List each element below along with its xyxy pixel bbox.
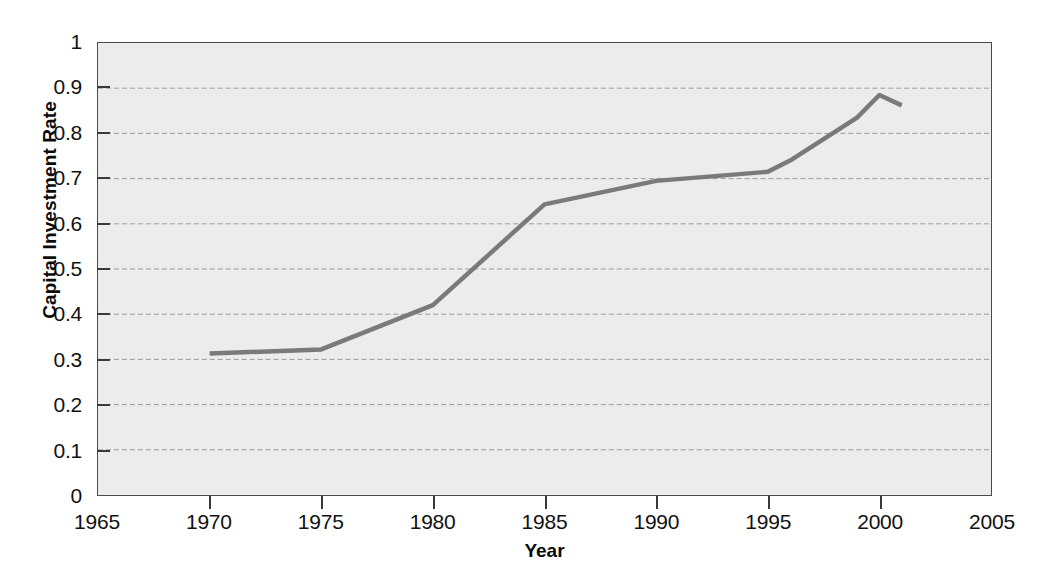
plot-area: [97, 42, 992, 496]
x-axis-tick-label: 1970: [186, 510, 232, 534]
y-axis-tick-mark: [97, 177, 110, 179]
x-axis-tick-mark: [433, 496, 435, 509]
x-axis-tick-label: 1980: [410, 510, 456, 534]
y-axis-tick-mark: [97, 132, 110, 134]
line-chart: 00.10.20.30.40.50.60.70.80.91 Capital In…: [0, 0, 1048, 567]
x-axis-tick-mark: [321, 496, 323, 509]
y-axis-title: Capital Investment Rate: [39, 10, 61, 410]
x-axis-tick-mark: [545, 496, 547, 509]
x-axis-tick-mark: [656, 496, 658, 509]
y-axis-tick-mark: [97, 404, 110, 406]
x-axis-tick-label: 1990: [633, 510, 679, 534]
x-axis-tick-label: 1985: [522, 510, 568, 534]
x-axis-tick-mark: [768, 496, 770, 509]
y-axis-tick-mark: [97, 359, 110, 361]
series-line: [210, 95, 902, 354]
x-axis-tick-label: 1975: [298, 510, 344, 534]
x-axis-tick-label: 1965: [74, 510, 120, 534]
y-axis-tick-label: 1: [71, 30, 82, 54]
y-axis-tick-mark: [97, 86, 110, 88]
x-axis-tick-label: 2005: [969, 510, 1015, 534]
y-axis-tick-label: 0: [71, 484, 82, 508]
data-series-line: [98, 43, 991, 495]
x-axis-tick-mark: [880, 496, 882, 509]
y-axis-tick-label: 0.1: [53, 439, 82, 463]
y-axis-tick-mark: [97, 313, 110, 315]
x-axis-tick-label: 2000: [857, 510, 903, 534]
x-axis-tick-mark: [209, 496, 211, 509]
x-axis-tick-label: 1995: [745, 510, 791, 534]
y-axis-tick-mark: [97, 268, 110, 270]
x-axis-title: Year: [97, 540, 992, 562]
y-axis-tick-mark: [97, 223, 110, 225]
y-axis-tick-mark: [97, 450, 110, 452]
